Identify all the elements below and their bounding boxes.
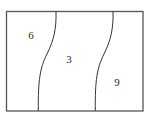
outer-rectangle xyxy=(7,12,144,112)
partition-diagram: 6 3 9 xyxy=(0,0,145,117)
region-label-left: 6 xyxy=(28,30,34,41)
region-label-right: 9 xyxy=(114,77,120,88)
diagram-canvas xyxy=(0,0,145,117)
region-label-middle: 3 xyxy=(66,54,72,65)
